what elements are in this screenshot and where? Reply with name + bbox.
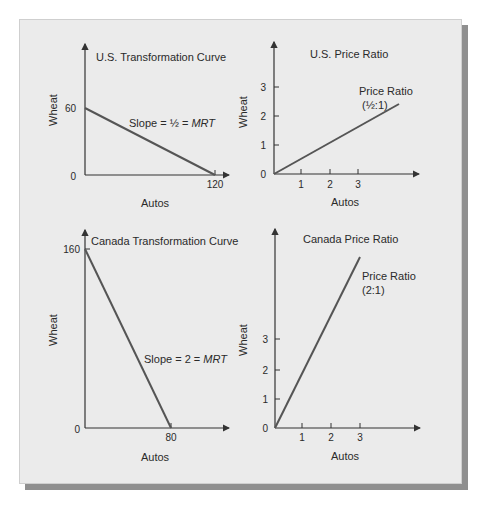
chart-title: U.S. Price Ratio xyxy=(310,48,388,60)
price-ratio-value: (½:1) xyxy=(362,99,388,111)
x-axis-label: Autos xyxy=(141,197,170,209)
y-tick: 0 xyxy=(260,169,266,180)
x-tick-120: 120 xyxy=(207,179,224,190)
transformation-line xyxy=(85,249,171,428)
chart-us-price-ratio: U.S. Price Ratio 0 1 2 3 1 2 3 Autos Whe… xyxy=(237,42,419,208)
x-tick: 3 xyxy=(355,179,361,190)
price-ratio-line xyxy=(274,104,399,174)
y-tick: 2 xyxy=(262,365,268,376)
y-axis-label: Wheat xyxy=(47,94,59,126)
chart-canada-transformation: Canada Transformation Curve 160 0 80 Aut… xyxy=(47,230,238,463)
price-ratio-value: (2:1) xyxy=(362,284,385,296)
x-tick: 1 xyxy=(299,432,305,443)
y-axis-label: Wheat xyxy=(47,314,59,346)
x-tick: 2 xyxy=(327,179,333,190)
slope-annotation: Slope = 2 = MRT xyxy=(144,353,228,365)
price-ratio-line xyxy=(275,257,360,428)
x-tick: 3 xyxy=(357,432,363,443)
y-tick: 0 xyxy=(262,423,268,434)
y-tick: 1 xyxy=(262,394,268,405)
chart-title: Canada Price Ratio xyxy=(303,233,398,245)
x-axis-label: Autos xyxy=(331,450,360,462)
chart-title: U.S. Transformation Curve xyxy=(96,51,226,63)
y-tick: 1 xyxy=(260,140,266,151)
y-tick-160: 160 xyxy=(63,244,80,255)
y-tick-0: 0 xyxy=(70,171,76,182)
chart-canada-price-ratio: Canada Price Ratio 0 1 2 3 1 2 3 Autos W… xyxy=(237,229,420,462)
y-axis-label: Wheat xyxy=(237,324,249,356)
y-tick: 3 xyxy=(260,82,266,93)
x-tick: 1 xyxy=(298,179,304,190)
chart-title: Canada Transformation Curve xyxy=(91,235,238,247)
x-axis-label: Autos xyxy=(141,451,170,463)
figure-canvas: U.S. Transformation Curve 60 0 120 Autos… xyxy=(0,0,486,508)
y-tick: 3 xyxy=(262,334,268,345)
y-tick-60: 60 xyxy=(65,103,77,114)
chart-us-transformation: U.S. Transformation Curve 60 0 120 Autos… xyxy=(47,44,229,209)
y-tick-0: 0 xyxy=(74,424,80,435)
x-tick: 2 xyxy=(328,432,334,443)
y-tick: 2 xyxy=(260,111,266,122)
price-ratio-label: Price Ratio xyxy=(362,270,416,282)
price-ratio-label: Price Ratio xyxy=(359,85,413,97)
slope-annotation: Slope = ½ = MRT xyxy=(129,117,216,129)
y-axis-label: Wheat xyxy=(237,96,249,128)
x-axis-label: Autos xyxy=(331,196,360,208)
x-tick-80: 80 xyxy=(165,432,177,443)
